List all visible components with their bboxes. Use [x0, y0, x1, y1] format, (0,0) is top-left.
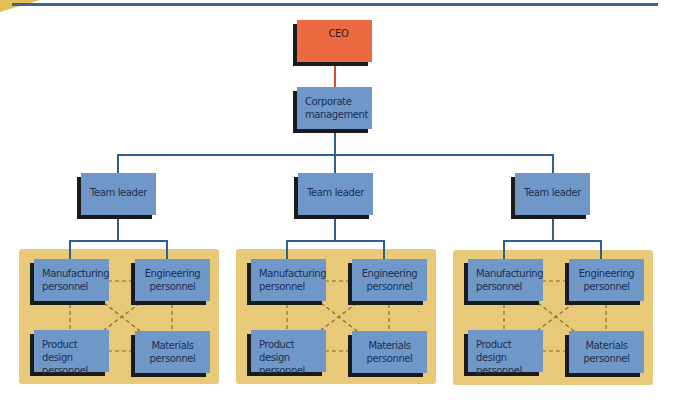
team3-engineering-label: Engineering personnel: [569, 259, 644, 301]
team3-product-design-label: Product design personnel: [468, 330, 543, 372]
team3-engineering-node: Engineering personnel: [569, 259, 644, 301]
team3-materials-node: Materials personnel: [569, 331, 644, 373]
team3-product-design-node: Product design personnel: [468, 330, 543, 372]
team3-manufacturing-node: Manufacturing personnel: [468, 259, 543, 301]
team3-manufacturing-label: Manufacturing personnel: [468, 259, 543, 301]
team3-materials-label: Materials personnel: [569, 331, 644, 373]
